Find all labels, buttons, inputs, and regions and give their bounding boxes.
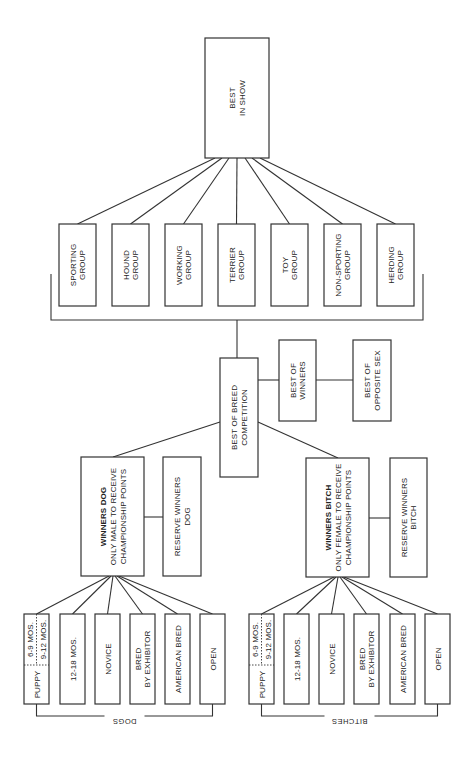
- dogs-class-novice-box-label: NOVICE: [104, 643, 113, 674]
- dogs-class-american-bred-box-label: AMERICAN BRED: [174, 625, 183, 693]
- best-of-breed-box-label: COMPETITION: [240, 389, 249, 446]
- bitches-class-fan-line-2: [332, 577, 339, 614]
- group-non-sporting-box: NON-SPORTINGGROUP: [324, 224, 361, 306]
- group-toy-box: TOYGROUP: [271, 224, 308, 306]
- reserve-winners-dog-box: RESERVE WINNERSDOG: [163, 457, 201, 576]
- group-sporting-box: SPORTINGGROUP: [59, 224, 96, 306]
- bitches-class-american-bred-box: AMERICAN BRED: [390, 614, 415, 704]
- dogs-class-fan-line-3: [115, 576, 143, 614]
- puppy-label: PUPPY: [33, 670, 42, 698]
- reserve-winners-dog-box-label: RESERVE WINNERS: [173, 477, 182, 557]
- reserve-winners-dog-box-label: DOG: [183, 507, 192, 526]
- group-non-sporting-box-label: GROUP: [343, 250, 352, 280]
- bitches-class-fan-line-1: [297, 577, 337, 614]
- diagram-nodes: BESTIN SHOWSPORTINGGROUPHOUNDGROUPWORKIN…: [24, 38, 450, 726]
- best-of-opposite-sex-box: BEST OFOPPOSITE SEX: [353, 340, 391, 421]
- best-of-winners-box-label: BEST OF: [289, 363, 298, 398]
- best-in-show-box-label: BEST: [228, 87, 237, 108]
- group-working-box-label: GROUP: [184, 250, 193, 280]
- dog-show-hierarchy-diagram: BESTIN SHOWSPORTINGGROUPHOUNDGROUPWORKIN…: [0, 0, 475, 760]
- winners-dog-box-label: WINNERS DOG: [99, 487, 108, 546]
- dogs-class-bred-by-exhibitor-box: BREDBY EXHIBITOR: [130, 614, 155, 704]
- best-of-opposite-sex-box-label: BEST OF: [363, 363, 372, 398]
- group-herding-box: HERDINGGROUP: [377, 224, 414, 306]
- winners-dog-box-label: CHAMPIONSHIP POINTS: [119, 469, 128, 565]
- puppy-label: PUPPY: [258, 670, 267, 698]
- bitches-class-12-18-box: 12-18 MOS.: [284, 614, 309, 704]
- dogs-class-fan-line-2: [108, 576, 114, 614]
- bitches-bracket-label: BITCHES: [331, 717, 367, 726]
- group-hound-box: HOUNDGROUP: [112, 224, 149, 306]
- dogs-class-novice-box: NOVICE: [95, 614, 120, 704]
- bitches-class-open-box-label: OPEN: [434, 647, 443, 670]
- bitches-class-open-box: OPEN: [425, 614, 450, 704]
- group-working-box-label: WORKING: [175, 245, 184, 285]
- puppy-6-9-label: 6-9 MOS.: [251, 622, 260, 657]
- bob-to-winners-bitch-line: [258, 422, 338, 458]
- reserve-winners-bitch-box-label: BITCH: [409, 505, 418, 530]
- group-toy-box-label: TOY: [281, 256, 290, 273]
- group-terrier-box: TERRIERGROUP: [218, 224, 255, 306]
- best-in-show-box-label: IN SHOW: [238, 80, 247, 116]
- best-of-winners-box-label: WINNERS: [298, 361, 307, 399]
- dogs-class-fan-line-0: [37, 576, 110, 614]
- puppy-6-9-label: 6-9 MOS.: [26, 622, 35, 657]
- bitches-class-fan-line-0: [262, 577, 335, 614]
- winners-dog-box: WINNERS DOGONLY MALE TO RECEIVECHAMPIONS…: [81, 457, 144, 576]
- dogs-class-fan-line-4: [117, 576, 178, 614]
- dogs-class-bred-by-exhibitor-box-label: BRED: [134, 648, 143, 671]
- dogs-bracket-label: DOGS: [112, 717, 136, 726]
- group-sporting-box-label: GROUP: [78, 250, 87, 280]
- bitches-class-bred-by-exhibitor-box: BREDBY EXHIBITOR: [354, 614, 379, 704]
- bitches-class-novice-box-label: NOVICE: [328, 643, 337, 674]
- puppy-9-12-label: 9-12 MOS.: [264, 620, 273, 660]
- dogs-class-open-box-label: OPEN: [209, 647, 218, 670]
- dogs-class-bred-by-exhibitor-box-label: BY EXHIBITOR: [143, 630, 152, 687]
- reserve-winners-bitch-box: RESERVE WINNERSBITCH: [390, 458, 427, 577]
- best-of-winners-box: BEST OFWINNERS: [279, 340, 316, 421]
- bitches-puppy-box: PUPPY6-9 MOS.9-12 MOS.: [249, 614, 274, 704]
- fan-line-terrier: [237, 158, 238, 224]
- bitches-class-12-18-box-label: 12-18 MOS.: [293, 637, 302, 681]
- group-terrier-box-label: TERRIER: [228, 247, 237, 283]
- dogs-class-fan-line-5: [119, 576, 213, 614]
- dogs-puppy-box: PUPPY6-9 MOS.9-12 MOS.: [24, 614, 49, 704]
- dogs-class-12-18-box: 12-18 MOS.: [60, 614, 85, 704]
- group-non-sporting-box-label: NON-SPORTING: [334, 233, 343, 296]
- group-toy-box-label: GROUP: [290, 250, 299, 280]
- group-herding-box-label: HERDING: [387, 246, 396, 284]
- best-in-show-box: BESTIN SHOW: [205, 38, 269, 158]
- group-working-box: WORKINGGROUP: [165, 224, 202, 306]
- group-terrier-box-label: GROUP: [237, 250, 246, 280]
- dogs-class-fan-line-1: [73, 576, 112, 614]
- group-hound-box-label: HOUND: [122, 250, 131, 280]
- dogs-class-12-18-box-label: 12-18 MOS.: [69, 637, 78, 681]
- bitches-class-fan-line-5: [344, 577, 438, 614]
- puppy-9-12-label: 9-12 MOS.: [39, 620, 48, 660]
- bitches-class-american-bred-box-label: AMERICAN BRED: [399, 625, 408, 693]
- dogs-class-open-box: OPEN: [200, 614, 225, 704]
- winners-bitch-box-label: CHAMPIONSHIP POINTS: [344, 470, 353, 566]
- group-herding-box-label: GROUP: [396, 250, 405, 280]
- bitches-class-fan-line-4: [342, 577, 403, 614]
- fan-line-sporting: [78, 158, 216, 224]
- bitches-class-fan-line-3: [340, 577, 367, 614]
- best-of-opposite-sex-box-label: OPPOSITE SEX: [373, 350, 382, 411]
- winners-bitch-box-label: ONLY FEMALE TO RECEIVE: [334, 464, 343, 572]
- fan-line-herding: [260, 158, 396, 224]
- bitches-class-novice-box: NOVICE: [319, 614, 344, 704]
- best-of-breed-box-label: BEST OF BREED: [230, 385, 239, 450]
- group-sporting-box-label: SPORTING: [69, 244, 78, 286]
- bob-to-winners-dog-line: [113, 422, 220, 457]
- winners-dog-box-label: ONLY MALE TO RECEIVE: [109, 468, 118, 565]
- dogs-class-american-bred-box: AMERICAN BRED: [165, 614, 190, 704]
- best-of-breed-box: BEST OF BREEDCOMPETITION: [220, 358, 258, 477]
- reserve-winners-bitch-box-label: RESERVE WINNERS: [400, 478, 409, 558]
- winners-bitch-box-label: WINNERS BITCH: [324, 485, 333, 551]
- fan-line-toy: [245, 158, 290, 224]
- fan-line-working: [184, 158, 230, 224]
- group-hound-box-label: GROUP: [131, 250, 140, 280]
- bitches-class-bred-by-exhibitor-box-label: BY EXHIBITOR: [367, 630, 376, 687]
- bitches-class-bred-by-exhibitor-box-label: BRED: [358, 648, 367, 671]
- winners-bitch-box: WINNERS BITCHONLY FEMALE TO RECEIVECHAMP…: [306, 458, 369, 577]
